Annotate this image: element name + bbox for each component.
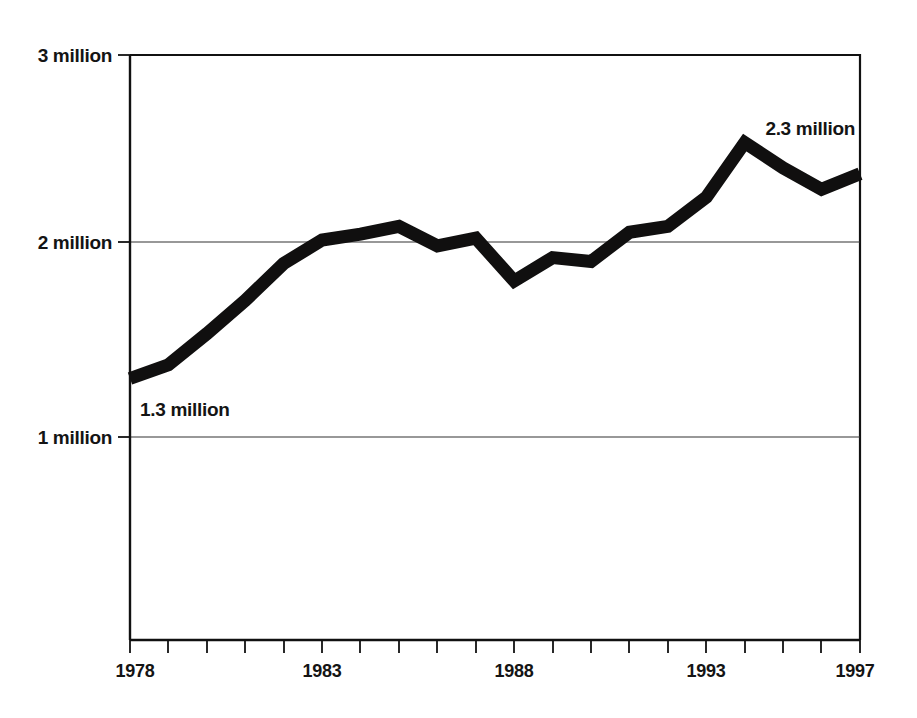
chart-background [0,0,917,718]
xtick-label-1993: 1993 [687,661,726,681]
annotation-start-value: 1.3 million [140,399,230,420]
chart-canvas: 3 million 2 million 1 million [0,0,917,718]
ytick-label-1-million: 1 million [38,427,112,448]
ytick-label-2-million: 2 million [38,232,112,253]
xtick-label-1997: 1997 [836,661,875,681]
ytick-label-3-million: 3 million [38,45,112,66]
xtick-label-1978: 1978 [116,661,155,681]
xtick-label-1983: 1983 [303,661,342,681]
annotation-end-value: 2.3 million [765,118,855,139]
xtick-label-1988: 1988 [495,661,534,681]
line-chart-figure: 3 million 2 million 1 million [0,0,917,718]
